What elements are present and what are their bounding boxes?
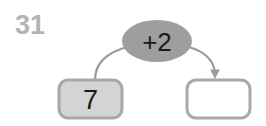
operation-label: +2	[142, 27, 172, 57]
function-machine-diagram: +2 7	[0, 0, 266, 126]
output-box[interactable]	[187, 80, 250, 118]
input-arrow	[95, 47, 127, 80]
worksheet-canvas: 31 +2 7	[0, 0, 266, 126]
output-arrow	[189, 47, 215, 73]
output-arrowhead-icon	[210, 70, 220, 79]
input-box-value: 7	[83, 85, 98, 115]
